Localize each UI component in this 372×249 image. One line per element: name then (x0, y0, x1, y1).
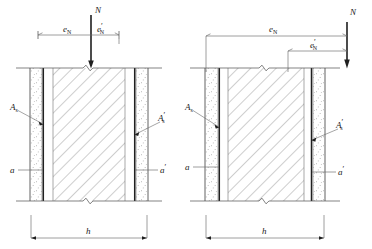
width-label: h (262, 226, 267, 236)
right-cover-zone (313, 68, 325, 201)
left-inner-strip (45, 68, 54, 201)
eccentricity-left-label: eN (269, 24, 278, 35)
dim-barb-right (115, 33, 119, 35)
engineering-diagram: eN e′N N As A′s a (0, 0, 372, 249)
figure-root: eN e′N N As A′s a (0, 0, 372, 249)
cover-right-label: a′ (160, 163, 167, 175)
dim-barb-inner-left (288, 49, 293, 51)
left-inner-strip (219, 68, 228, 201)
concrete-core (53, 68, 125, 201)
left-cover-zone (205, 68, 218, 201)
cover-left-label: a (185, 162, 190, 172)
width-arrow-left (31, 236, 36, 240)
width-arrow-right (142, 236, 147, 240)
rebar-left-label: As (184, 102, 194, 113)
eccentricity-right-label: e′N (97, 22, 105, 35)
cover-left-label: a (10, 165, 15, 175)
rebar-right-label: A′s (335, 118, 344, 131)
eccentricity-right-label: e′N (310, 38, 318, 51)
rebar-left-label: As (9, 102, 19, 113)
panel-right: N eN e′N As (184, 7, 357, 240)
load-label: N (349, 7, 357, 17)
eccentricity-left-label: eN (63, 24, 72, 35)
width-arrow-right (319, 236, 324, 240)
concrete-core (228, 68, 304, 201)
panel-left: eN e′N N As A′s a (9, 5, 167, 240)
width-label: h (86, 226, 91, 236)
load-arrow-head (344, 60, 350, 69)
dim-barb-outer-left (206, 34, 211, 36)
load-arrow-head (88, 61, 94, 69)
load-label: N (94, 5, 102, 15)
cover-right-label: a′ (338, 165, 345, 177)
dim-barb-left (38, 33, 43, 35)
left-cover-zone (30, 68, 42, 201)
right-inner-strip (125, 68, 134, 201)
width-arrow-left (206, 236, 211, 240)
rebar-right-label: A′s (157, 111, 166, 124)
